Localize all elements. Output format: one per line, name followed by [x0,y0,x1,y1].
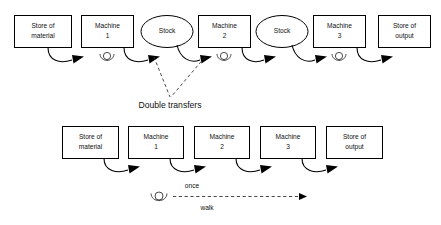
node-label-line2: output [345,143,364,151]
node-machine-3-bottom: Machine 3 [261,127,316,159]
arrow-head-icon [315,55,327,64]
node-label-line2: 2 [220,143,224,150]
double-transfers-callout: Double transfers [138,57,205,110]
node-store-output-bottom: Store of output [327,127,383,159]
node-label-line2: material [31,32,55,39]
worker-head-icon [155,192,163,200]
node-stock-2: Stock [256,16,308,48]
transfer-arrow [292,45,315,61]
arrow-head-icon [194,165,206,174]
node-store-output-top: Store of output [379,16,431,48]
transfer-arrow [242,48,264,62]
arrow-head-icon [72,55,84,64]
node-machine-2-top: Machine 2 [199,16,251,48]
arrow-head-icon [128,165,140,174]
transfer-arrow [170,159,194,172]
node-machine-1-bottom: Machine 1 [129,127,184,159]
node-label-line2: 1 [154,143,158,150]
node-label-line1: Store of [79,133,102,140]
transfer-arrow [104,159,128,172]
transfer-arrow [177,45,200,61]
arrow-head-icon [381,55,393,64]
double-transfers-label: Double transfers [138,100,201,110]
transfer-arrow [357,48,381,62]
worker-icon-top-machine-1 [100,52,114,60]
node-label-line1: Machine [144,133,169,140]
transfer-arrow [236,159,260,172]
node-label-line2: 3 [338,32,342,39]
node-label-line1: Stock [274,27,291,34]
callout-leader-right [171,57,205,97]
process-flow-diagram: Store of material Machine 1 Stock Machin… [0,0,441,225]
arrow-head-icon [260,165,272,174]
node-machine-2-bottom: Machine 2 [195,127,250,159]
worker-icon-top-machine-3 [332,52,346,60]
node-label-line1: Store of [393,22,416,29]
transfer-arrow [48,48,72,62]
walk-legend-group: once walk [151,182,307,211]
node-machine-1-top: Machine 1 [82,16,134,48]
worker-head-icon [335,52,342,59]
node-label-line1: Store of [31,22,54,29]
node-label-line1: Machine [212,22,237,29]
worker-icon-legend [151,192,167,201]
arrow-head-icon [299,193,307,200]
node-stock-1: Stock [141,16,193,48]
node-label-line1: Machine [95,22,120,29]
arrow-head-icon [148,55,160,64]
worker-icon-top-machine-2 [217,52,231,60]
node-label-line1: Store of [343,133,366,140]
flow-diagram-canvas: Store of material Machine 1 Stock Machin… [0,0,441,225]
node-label-line1: Machine [210,133,235,140]
node-label-line2: 1 [106,32,110,39]
legend-label-walk: walk [199,204,214,211]
bottom-row-arrows [104,159,338,174]
node-label-line2: 2 [223,32,227,39]
node-label-line2: 3 [286,143,290,150]
arrow-head-icon [326,165,338,174]
arrow-head-icon [200,55,212,64]
transfer-arrow [302,159,326,172]
worker-head-icon [220,52,227,59]
top-row-group: Store of material Machine 1 Stock Machin… [15,16,431,64]
callout-leader-left [154,57,170,97]
bottom-row-group: Store of material Machine 1 Machine 2 Ma… [63,127,383,174]
node-store-material-bottom: Store of material [63,127,119,159]
arrow-head-icon [264,55,276,64]
worker-head-icon [103,52,110,59]
node-label-line2: material [79,143,103,150]
node-machine-3-top: Machine 3 [314,16,366,48]
legend-label-once: once [185,182,200,189]
node-store-material-top: Store of material [15,16,72,48]
node-label-line1: Machine [276,133,301,140]
transfer-arrow [124,48,148,62]
node-label-line2: output [395,32,414,40]
node-label-line1: Machine [327,22,352,29]
node-label-line1: Stock [159,27,176,34]
